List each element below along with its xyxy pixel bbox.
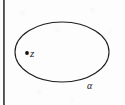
figure-canvas: z α xyxy=(0,0,125,105)
interior-point-z-dot xyxy=(25,51,29,55)
curve-label-alpha: α xyxy=(87,81,92,91)
figure-graphic xyxy=(0,0,125,105)
point-label-z: z xyxy=(30,48,34,59)
